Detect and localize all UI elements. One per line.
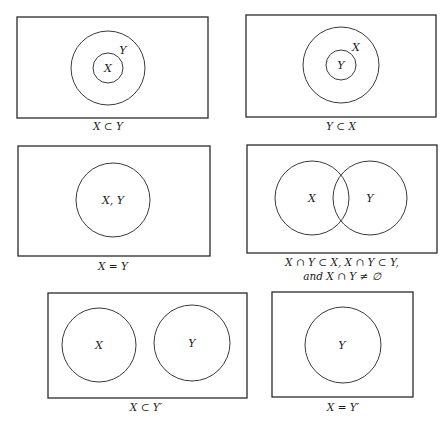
set-y-label: Y — [119, 44, 128, 57]
panel-caption: Y ⊂ X — [326, 120, 356, 132]
set-y-label: Y — [337, 59, 346, 72]
panel-y-subset-x: Y X Y ⊂ X — [246, 15, 436, 132]
set-x-label: X — [307, 192, 317, 205]
panel-caption: X ⊂ Y — [92, 120, 124, 132]
set-x-label: X — [103, 62, 113, 75]
set-y-label: Y — [188, 337, 197, 350]
set-x-label: X — [94, 339, 104, 352]
set-xy-label: X, Y — [101, 194, 126, 207]
set-x-label: X — [351, 41, 361, 54]
universe-rectangle — [48, 293, 247, 398]
panel-overlapping: X Y X ∩ Y ⊂ X, X ∩ Y ⊂ Y, and X ∩ Y ≠ ∅ — [247, 145, 437, 282]
universe-rectangle — [17, 17, 208, 118]
panel-caption-line-2: and X ∩ Y ≠ ∅ — [303, 270, 381, 282]
set-y-label: Y — [366, 192, 375, 205]
venn-diagram-figure: X Y X ⊂ Y Y X Y ⊂ X X, Y X = Y X Y X ∩ Y… — [0, 0, 448, 428]
panel-complement: Y X = Y′ — [272, 292, 413, 413]
panel-x-subset-y: X Y X ⊂ Y — [17, 17, 208, 132]
set-y-label: Y — [338, 339, 347, 352]
panel-x-equals-y: X, Y X = Y — [18, 146, 210, 272]
panel-caption: X ⊂ Y′ — [129, 401, 163, 413]
panel-caption: X = Y′ — [326, 401, 360, 413]
panel-caption-line-1: X ∩ Y ⊂ X, X ∩ Y ⊂ Y, — [284, 256, 399, 268]
panel-disjoint: X Y X ⊂ Y′ — [48, 293, 247, 413]
panel-caption: X = Y — [97, 260, 129, 272]
